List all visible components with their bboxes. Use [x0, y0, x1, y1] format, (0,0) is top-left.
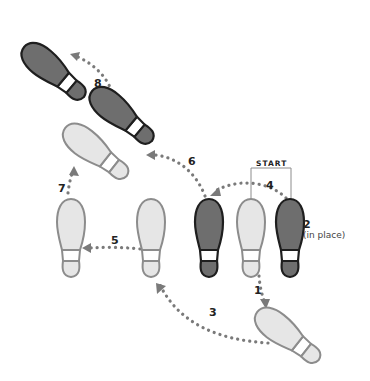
arrowhead-step-3	[156, 283, 166, 294]
step-label-6: 6	[188, 156, 196, 167]
step-label-8: 8	[94, 78, 102, 89]
footprint-start-right	[276, 199, 304, 277]
footprint-step5-left	[57, 199, 85, 277]
footprint-step3-left	[137, 199, 165, 277]
step-label-5: 5	[111, 235, 119, 246]
path-step-5	[90, 247, 140, 249]
dance-step-diagram: START 4 2 (in place) 1 3 5 6 7 8	[0, 0, 370, 381]
arrowhead-step-8	[70, 52, 80, 61]
path-step-6	[155, 155, 205, 196]
footprint-step1-left	[249, 301, 328, 371]
step-label-2: 2	[303, 219, 311, 230]
step-label-4: 4	[266, 180, 274, 191]
arrowhead-step-7	[69, 166, 79, 176]
diagram-canvas	[0, 0, 370, 381]
footprint-start-left	[237, 199, 265, 277]
step-label-1: 1	[254, 285, 262, 296]
arrowhead-step-6	[146, 150, 155, 160]
arrowhead-step-4	[210, 187, 221, 196]
step-note-2: (in place)	[303, 231, 345, 240]
arrowhead-step-5	[82, 243, 91, 253]
start-label: START	[256, 159, 287, 168]
step-label-3: 3	[209, 307, 217, 318]
footprint-step8-right	[15, 36, 93, 108]
step-label-7: 7	[58, 183, 66, 194]
footprint-step4-right	[195, 199, 223, 277]
path-step-7	[68, 174, 72, 193]
